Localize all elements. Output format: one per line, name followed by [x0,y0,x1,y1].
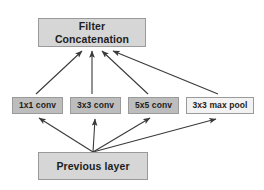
node-max-pool-3x3: 3x3 max pool [186,97,254,114]
node-conv-3x3-label: 3x3 conv [77,100,114,110]
edge-conv5x5-to-concatenation [102,51,148,94]
edge-conv1x1-to-concatenation [36,51,82,94]
node-conv-1x1-label: 1x1 conv [19,100,56,110]
edge-maxpool3x3-to-concatenation [113,51,218,94]
edge-previous-to-conv5x5 [93,118,150,152]
node-conv-5x5-label: 5x5 conv [135,100,172,110]
edge-previous-to-maxpool3x3 [93,119,216,152]
node-previous-layer: Previous layer [38,152,148,180]
node-conv-1x1: 1x1 conv [12,97,63,114]
edge-previous-to-conv3x3 [93,119,95,152]
edge-previous-to-conv1x1 [39,118,93,152]
inception-module-diagram: Filter Concatenation 1x1 conv 3x3 conv 5… [0,0,264,190]
node-previous-layer-label: Previous layer [56,160,129,172]
node-conv-3x3: 3x3 conv [70,97,121,114]
node-filter-concatenation-label: Filter Concatenation [55,20,129,45]
node-conv-5x5: 5x5 conv [128,97,179,114]
node-filter-concatenation: Filter Concatenation [38,18,146,47]
node-max-pool-3x3-label: 3x3 max pool [192,100,247,110]
